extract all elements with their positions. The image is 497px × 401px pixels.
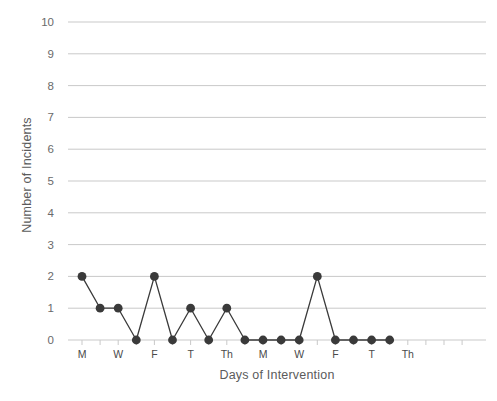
data-point-marker xyxy=(259,336,268,345)
data-point-marker xyxy=(78,272,87,281)
x-tick-label: Th xyxy=(221,348,233,360)
data-point-marker xyxy=(114,304,123,313)
data-point-marker xyxy=(186,304,195,313)
data-point-marker xyxy=(222,304,231,313)
data-point-marker xyxy=(168,336,177,345)
x-tick-label: M xyxy=(259,348,268,360)
y-tick-labels-group: 012345678910 xyxy=(41,16,54,346)
x-tick-label: M xyxy=(78,348,87,360)
y-tick-label: 6 xyxy=(48,143,54,155)
y-tick-label: 8 xyxy=(48,80,54,92)
data-point-marker xyxy=(295,336,304,345)
data-point-marker xyxy=(132,336,141,345)
data-point-marker xyxy=(313,272,322,281)
x-tick-label: W xyxy=(113,348,123,360)
x-tick-label: F xyxy=(332,348,338,360)
data-point-marker xyxy=(96,304,105,313)
data-point-marker xyxy=(331,336,340,345)
data-point-marker xyxy=(385,336,394,345)
data-point-marker xyxy=(204,336,213,345)
x-tick-label: W xyxy=(294,348,304,360)
data-point-marker xyxy=(367,336,376,345)
gridlines-group xyxy=(68,22,486,340)
plot-area: 012345678910 MWFTThMWFTTh xyxy=(0,0,497,401)
y-tick-label: 10 xyxy=(41,16,54,28)
line-chart: Number of Incidents 012345678910 MWFTThM… xyxy=(0,0,497,401)
x-tick-labels-group: MWFTThMWFTTh xyxy=(78,348,414,360)
y-tick-label: 7 xyxy=(48,111,54,123)
data-point-marker xyxy=(277,336,286,345)
x-tick-label: T xyxy=(187,348,194,360)
y-tick-label: 5 xyxy=(48,175,54,187)
y-tick-label: 9 xyxy=(48,48,54,60)
y-tick-label: 1 xyxy=(48,302,54,314)
data-point-marker xyxy=(150,272,159,281)
y-tick-label: 0 xyxy=(48,334,54,346)
data-point-marker xyxy=(241,336,250,345)
data-point-marker xyxy=(349,336,358,345)
x-tick-label: F xyxy=(151,348,157,360)
x-tick-label: Th xyxy=(402,348,414,360)
y-tick-label: 4 xyxy=(48,207,55,219)
y-tick-label: 2 xyxy=(48,270,54,282)
y-tick-label: 3 xyxy=(48,239,54,251)
x-axis-title: Days of Intervention xyxy=(68,368,486,382)
x-tick-label: T xyxy=(368,348,375,360)
